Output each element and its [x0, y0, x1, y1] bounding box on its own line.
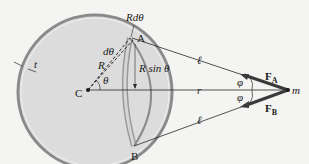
mass-point: [286, 88, 290, 92]
label-R-sin-theta: R sin θ: [138, 62, 170, 74]
label-ell-top: ℓ: [197, 54, 202, 66]
shell-diagram: Rdθ A B dθ R θ C t R sin θ ℓ ℓ r φ φ FA …: [0, 0, 309, 164]
label-C: C: [75, 87, 82, 99]
label-B: B: [131, 150, 138, 162]
label-A: A: [137, 32, 145, 44]
label-r: r: [197, 84, 202, 96]
thickness-arrow-out: [14, 62, 22, 66]
label-theta: θ: [103, 74, 109, 86]
label-phi-top: φ: [237, 76, 243, 88]
label-R-dtheta: Rdθ: [125, 11, 144, 23]
label-ell-bottom: ℓ: [197, 114, 202, 126]
center-point: [86, 88, 90, 92]
label-phi-bottom: φ: [237, 91, 243, 103]
label-R: R: [97, 59, 105, 71]
label-F-B: FB: [265, 102, 278, 117]
spherical-shell: [18, 15, 172, 164]
label-dtheta: dθ: [103, 45, 115, 57]
phi-arc-bottom: [250, 90, 253, 103]
label-m: m: [292, 84, 300, 96]
